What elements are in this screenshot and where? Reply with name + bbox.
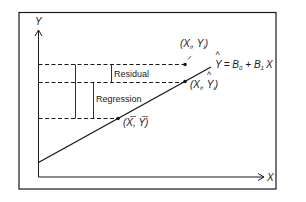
regression-diagram: Y X Residual Regression (Xi, Yi) (Xi, Yi…: [0, 0, 306, 202]
observed-pointer-arrow-icon: [188, 56, 191, 60]
regression-equation: ^ Y= B0+ B1X: [215, 50, 273, 71]
residual-label: Residual: [114, 69, 149, 79]
svg-text:(X, Y): (X, Y): [123, 117, 148, 128]
x-axis: X: [39, 172, 275, 183]
x-axis-label: X: [266, 172, 274, 183]
fitted-point-label: (Xi, Yi) ^: [190, 70, 218, 91]
deviation-bars: [76, 65, 112, 119]
fitted-point-marker: [183, 80, 187, 84]
svg-text:(Xi, Yi): (Xi, Yi): [190, 79, 218, 91]
observed-point-marker: [183, 63, 187, 67]
svg-text:Y= B0+ B1X: Y= B0+ B1X: [215, 59, 273, 71]
y-axis-label: Y: [35, 16, 43, 27]
regression-label: Regression: [96, 94, 142, 104]
frame-border: [19, 13, 276, 190]
svg-text:(Xi, Yi): (Xi, Yi): [180, 38, 208, 50]
mean-point-label: (X, Y): [123, 117, 148, 129]
observed-point-label: (Xi, Yi): [180, 38, 208, 50]
mean-point-marker: [116, 117, 120, 121]
y-axis: Y: [35, 16, 43, 177]
